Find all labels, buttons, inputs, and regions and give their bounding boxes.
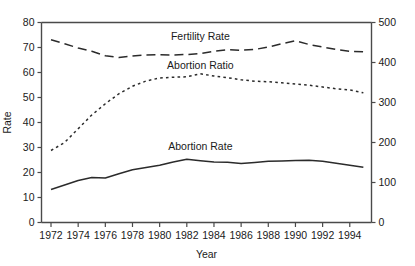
y2-tick-label: 0 <box>379 216 385 228</box>
x-tick-label: 1994 <box>338 229 362 241</box>
series-line-fertility-rate <box>51 40 363 58</box>
x-tick-label: 1978 <box>121 229 145 241</box>
y-tick-label: 60 <box>23 66 35 78</box>
x-tick-label: 1974 <box>66 229 90 241</box>
y2-tick-label: 200 <box>379 136 397 148</box>
x-tick-label: 1976 <box>94 229 118 241</box>
y2-tick-label: 300 <box>379 96 397 108</box>
x-tick-label: 1992 <box>311 229 335 241</box>
dual-axis-line-chart: 0102030405060708001002003004005001972197… <box>0 0 415 266</box>
series-label-group: Fertility RateAbortion RatioAbortion Rat… <box>167 30 234 152</box>
y-tick-label: 40 <box>23 116 35 128</box>
plot-area: 0102030405060708001002003004005001972197… <box>1 16 396 260</box>
x-tick-label: 1984 <box>202 229 226 241</box>
chart-container: 0102030405060708001002003004005001972197… <box>0 0 415 266</box>
y-tick-label: 70 <box>23 41 35 53</box>
y-axis-title: Rate <box>1 111 13 133</box>
series-annotation-abortion-ratio: Abortion Ratio <box>167 59 234 71</box>
x-tick-label: 1972 <box>39 229 63 241</box>
y-tick-label: 30 <box>23 141 35 153</box>
x-tick-label: 1988 <box>257 229 281 241</box>
series-line-abortion-rate <box>51 159 363 189</box>
x-tick-label: 1980 <box>148 229 172 241</box>
y-tick-label: 0 <box>29 216 35 228</box>
series-annotation-abortion-rate: Abortion Rate <box>168 140 232 152</box>
y-tick-label: 50 <box>23 91 35 103</box>
y2-tick-label: 100 <box>379 176 397 188</box>
x-tick-label: 1990 <box>284 229 308 241</box>
x-tick-label: 1986 <box>229 229 253 241</box>
y-tick-label: 10 <box>23 191 35 203</box>
y2-tick-label: 400 <box>379 56 397 68</box>
y-tick-label: 80 <box>23 16 35 28</box>
x-axis-title: Year <box>196 248 218 260</box>
series-annotation-fertility-rate: Fertility Rate <box>171 30 230 42</box>
y-tick-label: 20 <box>23 166 35 178</box>
x-tick-label: 1982 <box>175 229 199 241</box>
y2-tick-label: 500 <box>379 16 397 28</box>
